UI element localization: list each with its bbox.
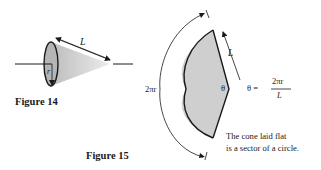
- cone-radius-label: r: [47, 66, 50, 77]
- sector-arc: [184, 30, 213, 138]
- formula-denominator: L: [277, 90, 282, 101]
- formula-lhs: θ =: [247, 83, 258, 94]
- figure-15-label: Figure 15: [86, 150, 129, 161]
- caption-line-1: The cone laid flat: [226, 131, 286, 142]
- sector-slant-label: L: [228, 48, 233, 59]
- cone-slant-label: L: [80, 36, 86, 47]
- cone-diagram: [15, 38, 133, 86]
- formula-numerator: 2πr: [272, 76, 283, 87]
- figure-14-label: Figure 14: [15, 96, 58, 107]
- caption-line-2: is a sector of a circle.: [226, 143, 299, 154]
- angle-label: θ: [221, 83, 225, 94]
- arc-length-label: 2πr: [145, 84, 156, 95]
